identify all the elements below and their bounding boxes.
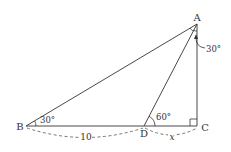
- length-label-DC: x: [169, 132, 174, 142]
- right-angle-marker: [190, 119, 197, 126]
- angle-label-B: 30°: [40, 115, 55, 125]
- point-label-B: B: [16, 121, 23, 132]
- geometry-diagram: 10 x A B C D 30° 60° 30°: [0, 0, 231, 152]
- angle-arc-D: [149, 116, 155, 126]
- point-label-A: A: [192, 12, 201, 23]
- angle-label-DAC: 30°: [206, 44, 221, 54]
- point-label-C: C: [201, 122, 209, 133]
- point-label-D: D: [140, 128, 148, 139]
- angle-arc-B: [35, 121, 36, 126]
- angle-arc-A: [194, 30, 197, 31]
- angle-label-ADC: 60°: [156, 112, 171, 122]
- angle-arc-A-outer: [190, 28, 193, 31]
- segment-AB: [26, 24, 197, 126]
- length-label-BD: 10: [80, 132, 92, 142]
